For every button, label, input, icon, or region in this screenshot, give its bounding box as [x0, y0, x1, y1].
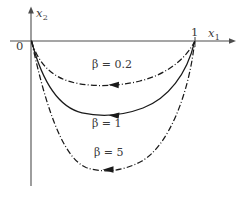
flow-arrow-beta-5 — [103, 166, 114, 173]
x-tick-label-one: 1 — [191, 27, 198, 39]
phase-plot-svg — [0, 0, 239, 197]
curve-label-beta-0.2: β = 0.2 — [92, 59, 132, 70]
y-axis-label-base: x — [36, 6, 43, 20]
curve-label-beta-1: β = 1 — [92, 118, 122, 129]
x-axis-arrowhead — [229, 38, 236, 44]
curve-beta-1 — [32, 41, 195, 115]
flow-arrow-beta-0.2 — [109, 82, 120, 88]
y-axis-label-subscript: 2 — [43, 13, 48, 22]
x-axis-label: x1 — [208, 28, 220, 40]
curve-label-beta-5: β = 5 — [94, 147, 124, 158]
x-axis-label-base: x — [208, 26, 215, 40]
y-axis-arrowhead — [28, 7, 34, 14]
figure-container: x2 x1 0 1 β = 0.2 β = 1 β = 5 — [0, 0, 239, 197]
x-axis-label-subscript: 1 — [215, 33, 220, 42]
origin-tick-label: 0 — [16, 41, 23, 53]
y-axis-label: x2 — [36, 8, 48, 20]
